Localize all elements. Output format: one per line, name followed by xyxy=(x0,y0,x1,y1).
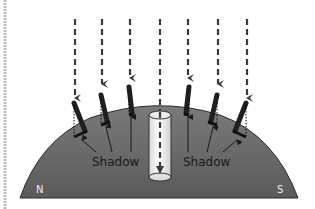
shadow-3 xyxy=(129,114,134,115)
shadow-4 xyxy=(184,114,189,115)
sun-shadow-diagram: Shadow Shadow N S xyxy=(0,0,315,209)
south-label: S xyxy=(277,184,283,195)
stick-3 xyxy=(129,87,132,113)
shadow-label-right: Shadow xyxy=(183,155,231,169)
north-label: N xyxy=(36,184,43,195)
stick-4 xyxy=(186,87,189,113)
well-cylinder xyxy=(149,111,171,181)
shadow-label-left: Shadow xyxy=(92,155,140,169)
